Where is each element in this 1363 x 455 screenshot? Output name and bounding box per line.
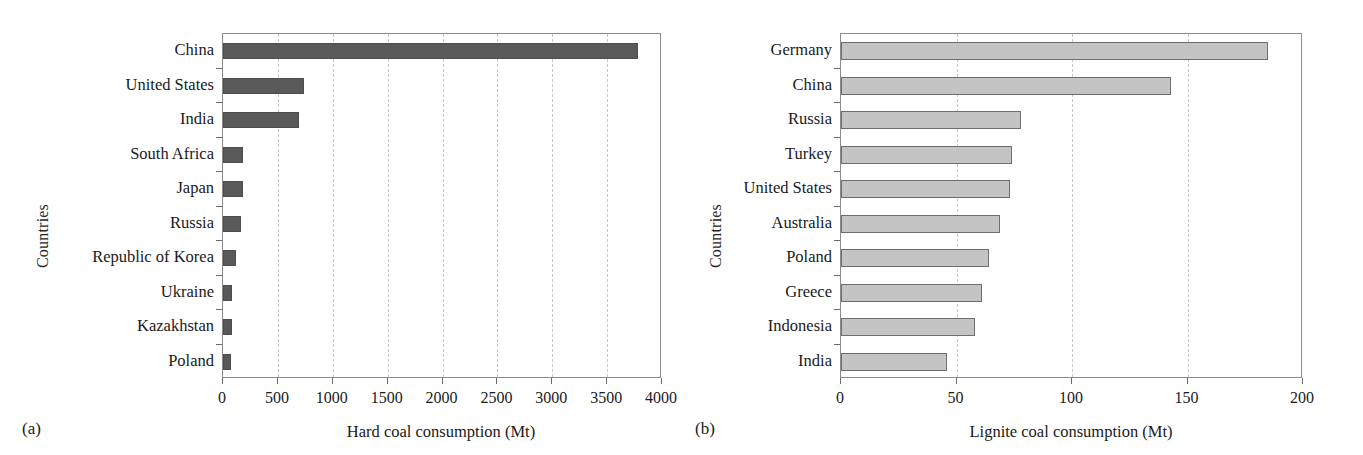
bar-china [223, 43, 638, 59]
bar-germany [841, 42, 1268, 60]
bar-ukraine [223, 285, 232, 301]
category-label-russia: Russia [788, 111, 832, 128]
panel-b-lignite-coal: Countries GermanyChinaRussiaTurkeyUnited… [673, 0, 1363, 455]
x-tick-2000 [442, 378, 443, 384]
bar-russia [223, 216, 241, 232]
bar-poland [841, 249, 989, 267]
category-label-china: China [175, 42, 214, 59]
category-label-united-states: United States [744, 180, 832, 197]
bar-greece [841, 284, 982, 302]
category-label-poland: Poland [786, 249, 832, 266]
bar-india [223, 112, 299, 128]
panel-b-letter: (b) [695, 420, 715, 437]
category-label-greece: Greece [785, 284, 832, 301]
x-tick-3000 [551, 378, 552, 384]
bar-kazakhstan [223, 319, 232, 335]
bar-japan [223, 181, 243, 197]
figure-two-panel-bar-charts: Countries ChinaUnited StatesIndiaSouth A… [0, 0, 1363, 455]
category-label-india: India [798, 353, 832, 370]
x-tick-label-1500: 1500 [371, 390, 403, 406]
panel-b-x-axis-title: Lignite coal consumption (Mt) [969, 424, 1172, 441]
category-label-south-africa: South Africa [130, 146, 214, 163]
gridline-1500 [388, 34, 389, 377]
y-tick-7 [216, 309, 222, 310]
bar-indonesia [841, 318, 975, 336]
y-tick-6 [216, 275, 222, 276]
category-label-germany: Germany [771, 42, 832, 59]
gridline-2500 [497, 34, 498, 377]
panel-a-x-axis-title: Hard coal consumption (Mt) [347, 424, 535, 441]
category-label-india: India [180, 111, 214, 128]
x-tick-0 [222, 378, 223, 384]
y-tick-1 [834, 102, 840, 103]
x-tick-label-150: 150 [1175, 390, 1199, 406]
bar-india [841, 353, 947, 371]
y-tick-2 [216, 137, 222, 138]
x-tick-label-100: 100 [1059, 390, 1083, 406]
x-tick-label-2000: 2000 [426, 390, 458, 406]
bar-turkey [841, 146, 1012, 164]
y-tick-6 [834, 275, 840, 276]
category-label-kazakhstan: Kazakhstan [137, 318, 214, 335]
y-tick-3 [834, 171, 840, 172]
x-tick-label-3500: 3500 [590, 390, 622, 406]
x-tick-label-500: 500 [265, 390, 289, 406]
category-label-russia: Russia [170, 215, 214, 232]
x-tick-label-2500: 2500 [480, 390, 512, 406]
panel-b-category-labels: GermanyChinaRussiaTurkeyUnited StatesAus… [673, 0, 832, 455]
category-label-australia: Australia [772, 215, 832, 232]
y-tick-4 [834, 206, 840, 207]
y-tick-8 [834, 344, 840, 345]
gridline-2000 [443, 34, 444, 377]
x-tick-2500 [496, 378, 497, 384]
x-tick-0 [840, 378, 841, 384]
bar-united-states [223, 78, 304, 94]
y-tick-5 [834, 240, 840, 241]
y-tick-0 [834, 68, 840, 69]
y-tick-7 [834, 309, 840, 310]
y-tick-1 [216, 102, 222, 103]
y-tick-2 [834, 137, 840, 138]
gridline-3500 [607, 34, 608, 377]
x-tick-label-1000: 1000 [316, 390, 348, 406]
panel-a-plot-area [222, 33, 661, 378]
category-label-japan: Japan [176, 180, 214, 197]
x-tick-label-200: 200 [1290, 390, 1314, 406]
bar-russia [841, 111, 1021, 129]
x-tick-3500 [606, 378, 607, 384]
bar-australia [841, 215, 1000, 233]
category-label-indonesia: Indonesia [768, 318, 832, 335]
y-tick-0 [216, 68, 222, 69]
panel-a-letter: (a) [22, 420, 41, 437]
x-tick-label-3000: 3000 [535, 390, 567, 406]
x-tick-50 [956, 378, 957, 384]
x-tick-label-0: 0 [218, 390, 226, 406]
x-tick-label-0: 0 [836, 390, 844, 406]
x-tick-150 [1187, 378, 1188, 384]
gridline-1000 [333, 34, 334, 377]
y-tick-8 [216, 344, 222, 345]
bar-poland [223, 354, 231, 370]
panel-b-plot-area [840, 33, 1302, 378]
y-tick-5 [216, 240, 222, 241]
category-label-china: China [793, 77, 832, 94]
x-tick-1500 [387, 378, 388, 384]
x-tick-1000 [332, 378, 333, 384]
panel-a-category-labels: ChinaUnited StatesIndiaSouth AfricaJapan… [0, 0, 214, 455]
x-tick-100 [1071, 378, 1072, 384]
y-tick-4 [216, 206, 222, 207]
x-tick-4000 [661, 378, 662, 384]
bar-china [841, 77, 1171, 95]
category-label-united-states: United States [126, 77, 214, 94]
x-tick-500 [277, 378, 278, 384]
panel-a-hard-coal: Countries ChinaUnited StatesIndiaSouth A… [0, 0, 690, 455]
gridline-3000 [552, 34, 553, 377]
bar-republic-of-korea [223, 250, 236, 266]
category-label-poland: Poland [168, 353, 214, 370]
y-tick-3 [216, 171, 222, 172]
x-tick-label-50: 50 [948, 390, 964, 406]
category-label-ukraine: Ukraine [161, 284, 214, 301]
bar-united-states [841, 180, 1010, 198]
x-tick-200 [1302, 378, 1303, 384]
category-label-turkey: Turkey [785, 146, 832, 163]
